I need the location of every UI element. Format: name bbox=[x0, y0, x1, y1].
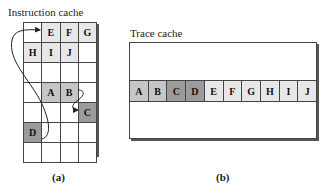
icache-block-j: J bbox=[60, 43, 78, 63]
icache-row: AB bbox=[24, 83, 97, 103]
icache-row: C bbox=[24, 103, 97, 123]
icache-empty-cell bbox=[60, 103, 78, 123]
trace-block-e: E bbox=[205, 81, 224, 101]
icache-row bbox=[24, 143, 97, 163]
icache-empty-cell bbox=[78, 63, 96, 83]
icache-block-h: H bbox=[24, 43, 42, 63]
icache-block-g: G bbox=[78, 23, 96, 43]
instruction-cache-grid: EFGHIJABCD bbox=[23, 22, 97, 155]
icache-empty-cell bbox=[78, 83, 96, 103]
trace-block-i: I bbox=[280, 81, 299, 101]
icache-block-i: I bbox=[42, 43, 60, 63]
icache-empty-cell bbox=[42, 103, 60, 123]
trace-block-h: H bbox=[261, 81, 280, 101]
instruction-cache-title: Instruction cache bbox=[8, 6, 83, 18]
icache-block-b: B bbox=[60, 83, 78, 103]
icache-empty-cell bbox=[24, 83, 42, 103]
icache-empty-cell bbox=[42, 63, 60, 83]
label-b: (b) bbox=[216, 171, 229, 183]
icache-row: D bbox=[24, 123, 97, 143]
trace-cache-box: ABCDEFGHIJ bbox=[129, 42, 317, 139]
icache-block-c: C bbox=[78, 103, 96, 123]
trace-block-g: G bbox=[242, 81, 261, 101]
icache-empty-cell bbox=[24, 103, 42, 123]
icache-block-d: D bbox=[24, 123, 42, 143]
trace-block-j: J bbox=[298, 81, 316, 101]
icache-empty-cell bbox=[24, 63, 42, 83]
icache-empty-cell bbox=[60, 63, 78, 83]
label-a: (a) bbox=[52, 171, 65, 183]
icache-empty-cell bbox=[78, 43, 96, 63]
icache-row: EFG bbox=[24, 23, 97, 43]
icache-empty-cell bbox=[60, 143, 78, 163]
icache-empty-cell bbox=[24, 23, 42, 43]
trace-block-a: A bbox=[130, 81, 149, 101]
trace-block-c: C bbox=[167, 81, 186, 101]
trace-line: ABCDEFGHIJ bbox=[130, 80, 316, 102]
trace-block-d: D bbox=[186, 81, 205, 101]
trace-block-f: F bbox=[224, 81, 243, 101]
icache-block-f: F bbox=[60, 23, 78, 43]
icache-empty-cell bbox=[60, 123, 78, 143]
icache-empty-cell bbox=[78, 123, 96, 143]
icache-block-a: A bbox=[42, 83, 60, 103]
trace-block-b: B bbox=[149, 81, 168, 101]
icache-block-e: E bbox=[42, 23, 60, 43]
icache-empty-cell bbox=[24, 143, 42, 163]
icache-row: HIJ bbox=[24, 43, 97, 63]
icache-empty-cell bbox=[78, 143, 96, 163]
icache-row bbox=[24, 63, 97, 83]
trace-cache-title: Trace cache bbox=[130, 27, 182, 39]
icache-empty-cell bbox=[42, 123, 60, 143]
icache-empty-cell bbox=[42, 143, 60, 163]
